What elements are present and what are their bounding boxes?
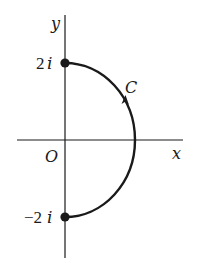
x-axis-label: x [172,144,181,163]
point-minus-2i [60,212,69,221]
label-minus-2i-imag: i [47,207,52,227]
point-2i [60,58,69,67]
label-minus-2i-number: −2 [24,208,42,227]
label-2i-number: 2 [36,54,45,73]
label-2i-imag: i [47,53,52,73]
contour-diagram: y x O C 2 i −2 i [0,0,205,263]
contour-label: C [125,78,137,97]
y-axis-label: y [50,14,61,33]
origin-label: O [45,147,58,166]
